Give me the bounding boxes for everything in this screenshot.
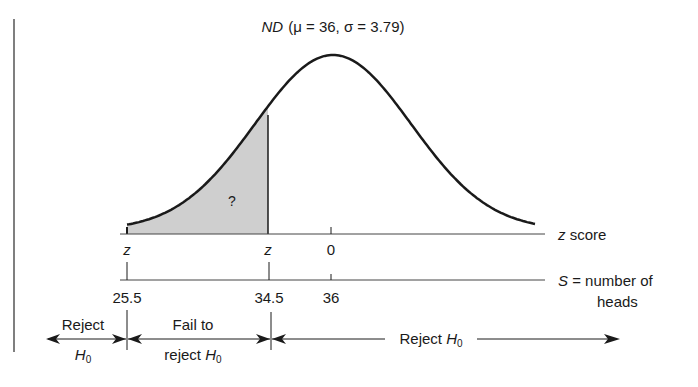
normal-distribution-diagram: ND(μ = 36, σ = 3.79) ? z z 0 z score 25.… bbox=[0, 0, 698, 387]
middle-region-label-1: Fail to bbox=[173, 316, 214, 333]
left-region-label-1: Reject bbox=[62, 316, 105, 333]
z-tick-label-zero: 0 bbox=[327, 241, 335, 258]
s-axis-label-line2: heads bbox=[597, 293, 638, 310]
s-tick-label-36: 36 bbox=[323, 289, 340, 306]
z-tick-label-left: z bbox=[122, 241, 131, 258]
left-region-label-2: H0 bbox=[75, 346, 92, 365]
s-tick-label-34-5: 34.5 bbox=[254, 289, 283, 306]
normal-curve bbox=[127, 55, 535, 225]
z-axis-label: z score bbox=[557, 226, 606, 243]
shaded-area bbox=[127, 106, 268, 234]
right-region-label: Reject H0 bbox=[399, 330, 463, 349]
s-axis-label: S = number of bbox=[558, 272, 653, 289]
shaded-area-label: ? bbox=[228, 193, 236, 209]
z-tick-label-mid: z bbox=[263, 241, 272, 258]
s-tick-label-25-5: 25.5 bbox=[112, 289, 141, 306]
middle-region-label-2: reject H0 bbox=[164, 346, 222, 365]
distribution-title: ND(μ = 36, σ = 3.79) bbox=[262, 18, 405, 35]
